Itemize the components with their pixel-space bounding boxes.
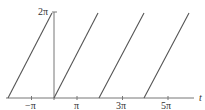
x-axis-label: t bbox=[199, 92, 202, 103]
sawtooth-segment-4 bbox=[144, 13, 189, 98]
sawtooth-segment-2 bbox=[54, 13, 98, 98]
chart-canvas: 2π −π π 3π 5π t bbox=[0, 0, 205, 110]
sawtooth-segment-3 bbox=[99, 13, 144, 98]
x-tick-label-neg-pi: −π bbox=[25, 100, 36, 110]
y-tick-label-2pi: 2π bbox=[38, 6, 48, 17]
x-tick-label-pi: π bbox=[74, 100, 79, 110]
sawtooth-segment-1 bbox=[8, 13, 52, 98]
x-tick-label-3pi: 3π bbox=[116, 100, 126, 110]
sawtooth-chart: 2π −π π 3π 5π t bbox=[0, 0, 205, 110]
x-tick-label-5pi: 5π bbox=[161, 100, 171, 110]
